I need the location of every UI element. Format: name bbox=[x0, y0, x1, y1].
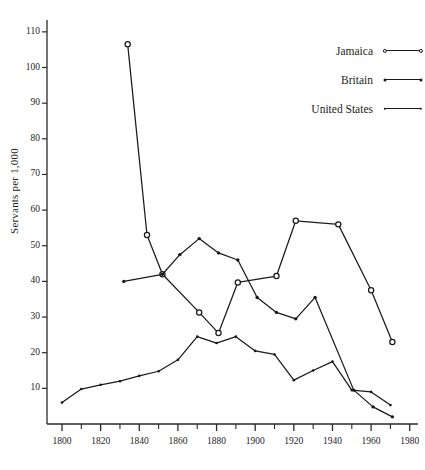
y-tick-label: 30 bbox=[14, 311, 40, 321]
legend-marker-dot bbox=[420, 78, 423, 81]
y-tick-label: 10 bbox=[14, 382, 40, 392]
legend-item-britain: Britain bbox=[280, 65, 425, 94]
series-united-states bbox=[61, 335, 392, 406]
x-tick-label: 1980 bbox=[390, 436, 425, 446]
x-tick-label: 1960 bbox=[351, 436, 391, 446]
x-tick-label: 1860 bbox=[158, 436, 198, 446]
y-tick-label: 70 bbox=[14, 168, 40, 178]
y-tick-label: 60 bbox=[14, 204, 40, 214]
legend-swatch-britain bbox=[381, 75, 425, 85]
y-tick-label: 50 bbox=[14, 240, 40, 250]
y-tick-label: 110 bbox=[14, 26, 40, 36]
legend-line-united-states bbox=[385, 108, 421, 109]
x-tick-label: 1920 bbox=[274, 436, 314, 446]
legend-marker-dot bbox=[384, 78, 387, 81]
legend-line-jamaica bbox=[385, 50, 421, 51]
y-tick-label: 20 bbox=[14, 347, 40, 357]
y-axis-title: Servants per 1,000 bbox=[8, 91, 20, 291]
legend-label-britain: Britain bbox=[341, 74, 373, 86]
x-tick-label: 1820 bbox=[81, 436, 121, 446]
legend-marker-open-circle bbox=[419, 48, 423, 52]
legend-marker-small-dot bbox=[420, 107, 422, 109]
x-tick-label: 1800 bbox=[42, 436, 82, 446]
x-tick-label: 1940 bbox=[312, 436, 352, 446]
legend-item-united-states: United States bbox=[280, 94, 425, 123]
legend-marker-open-circle bbox=[383, 48, 387, 52]
x-tick-label: 1900 bbox=[235, 436, 275, 446]
series-britain bbox=[122, 237, 394, 419]
legend-line-britain bbox=[385, 79, 421, 80]
legend-swatch-jamaica bbox=[381, 46, 425, 56]
chart-legend: Jamaica Britain United States bbox=[280, 36, 425, 123]
chart-figure: Servants per 1,000 102030405060708090100… bbox=[0, 0, 425, 470]
y-tick-label: 100 bbox=[14, 62, 40, 72]
y-tick-label: 40 bbox=[14, 275, 40, 285]
legend-label-united-states: United States bbox=[311, 103, 373, 115]
x-tick-label: 1880 bbox=[197, 436, 237, 446]
y-tick-label: 90 bbox=[14, 97, 40, 107]
y-tick-label: 80 bbox=[14, 133, 40, 143]
legend-item-jamaica: Jamaica bbox=[280, 36, 425, 65]
x-tick-label: 1840 bbox=[119, 436, 159, 446]
legend-label-jamaica: Jamaica bbox=[336, 45, 373, 57]
legend-swatch-united-states bbox=[381, 104, 425, 114]
